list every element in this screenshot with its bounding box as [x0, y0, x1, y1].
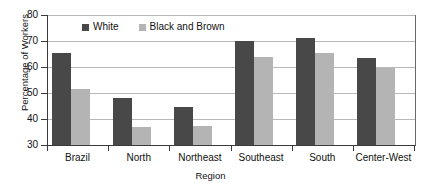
y-axis-tick — [41, 41, 47, 42]
bar-southeast-white — [235, 41, 254, 145]
legend-swatch-icon — [139, 24, 146, 31]
y-axis-label: 30 — [12, 140, 38, 150]
y-axis-tick — [41, 67, 47, 68]
gridline — [48, 15, 415, 16]
bar-southeast-black-and-brown — [254, 57, 273, 145]
legend-swatch-icon — [82, 24, 89, 31]
y-axis-tick — [41, 15, 47, 16]
y-axis-label: 40 — [12, 114, 38, 124]
plot-area — [47, 15, 416, 146]
x-axis-tick — [169, 146, 170, 151]
y-axis-tick — [41, 119, 47, 120]
bar-northeast-white — [174, 107, 193, 145]
gridline — [48, 41, 415, 42]
bar-brazil-black-and-brown — [71, 89, 90, 145]
bar-north-black-and-brown — [132, 127, 151, 145]
x-axis-label-center-west: Center-West — [353, 152, 414, 163]
x-axis-label-southeast: Southeast — [231, 152, 292, 163]
bar-center-west-black-and-brown — [376, 68, 395, 145]
bar-center-west-white — [357, 58, 376, 145]
x-axis-tick — [353, 146, 354, 151]
bar-north-white — [113, 98, 132, 145]
x-axis-tick — [292, 146, 293, 151]
bar-south-white — [296, 38, 315, 145]
legend-item-white: White — [82, 22, 119, 32]
x-axis-tick — [47, 146, 48, 151]
bar-south-black-and-brown — [315, 53, 334, 145]
legend-item-black-and-brown: Black and Brown — [139, 22, 225, 32]
legend-label: White — [93, 22, 119, 32]
bar-brazil-white — [52, 53, 71, 145]
x-axis-title: Region — [0, 170, 421, 181]
x-axis-tick — [414, 146, 415, 151]
x-axis-tick — [231, 146, 232, 151]
legend-label: Black and Brown — [150, 22, 225, 32]
bar-northeast-black-and-brown — [193, 126, 212, 146]
x-axis-label-north: North — [108, 152, 169, 163]
bar-chart: Percentage of Workers 304050607080 Brazi… — [0, 0, 421, 188]
y-axis-tick — [41, 93, 47, 94]
y-axis-label: 60 — [12, 62, 38, 72]
y-axis-label: 70 — [12, 36, 38, 46]
x-axis-label-brazil: Brazil — [47, 152, 108, 163]
legend: WhiteBlack and Brown — [82, 22, 225, 32]
x-axis-label-south: South — [292, 152, 353, 163]
y-axis-label: 50 — [12, 88, 38, 98]
x-axis-label-northeast: Northeast — [169, 152, 230, 163]
y-axis-label: 80 — [12, 10, 38, 20]
x-axis-tick — [108, 146, 109, 151]
